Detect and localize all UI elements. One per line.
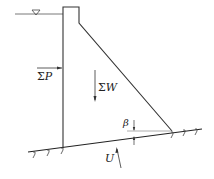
angle-beta-arrows	[133, 120, 135, 145]
dam-outline	[63, 7, 172, 148]
uplift-force-label: U	[105, 152, 115, 165]
foundation-line	[28, 129, 202, 152]
angle-beta-label: β	[122, 117, 129, 128]
vertical-force-arrow	[94, 70, 97, 102]
horizontal-force-label: ΣP	[37, 70, 53, 83]
vertical-force-label: ΣW	[98, 81, 119, 94]
dam-diagram: ΣP ΣW β U	[0, 0, 214, 179]
uplift-force-arrow	[115, 147, 121, 168]
